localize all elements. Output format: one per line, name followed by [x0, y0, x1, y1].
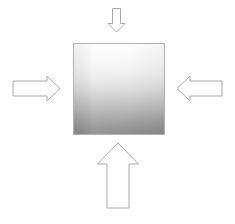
bottom-arrow-up-icon: [98, 143, 139, 208]
block-sheen-overlay: [74, 44, 165, 135]
compression-diagram: [0, 0, 235, 224]
top-arrow-down-icon: [108, 9, 125, 33]
right-arrow-left-icon: [177, 76, 222, 101]
diagram-svg: [0, 0, 235, 224]
central-square-block: [74, 44, 165, 135]
left-arrow-right-icon: [13, 76, 60, 101]
